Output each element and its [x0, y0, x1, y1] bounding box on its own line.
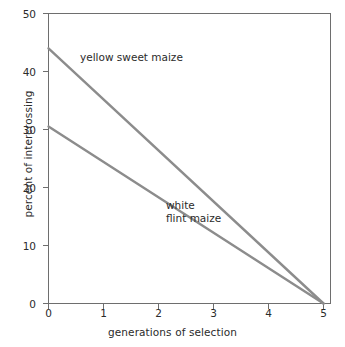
x-tick-1: 1	[94, 308, 114, 319]
x-tick-5: 5	[314, 308, 334, 319]
series-label-white-flint-maize: white flint maize	[166, 199, 221, 225]
x-tick-2: 2	[149, 308, 169, 319]
x-axis-title: generations of selection	[0, 326, 345, 338]
series-label-yellow-sweet-maize: yellow sweet maize	[80, 51, 183, 64]
x-tick-0: 0	[39, 308, 59, 319]
x-tick-4: 4	[259, 308, 279, 319]
x-axis-ticks	[49, 304, 324, 310]
chart-figure: 50 40 30 20 10 0 0 1 2 3 4 5 percent of …	[0, 0, 345, 347]
y-axis-title: percent of intercrossing	[22, 64, 34, 244]
series-line-yellow-sweet-maize	[49, 48, 324, 303]
y-axis-ticks	[43, 14, 49, 304]
x-tick-3: 3	[204, 308, 224, 319]
